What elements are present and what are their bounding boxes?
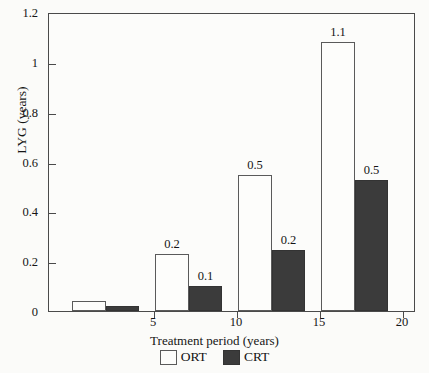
open-square-swatch-icon: [160, 350, 177, 365]
bar-ort-5: [72, 301, 106, 311]
y-axis-title: LYG (years): [14, 50, 30, 190]
bar-ort-20: [321, 42, 355, 311]
bar-label-crt-15: 0.2: [281, 233, 297, 248]
bar-ort-15: [238, 175, 272, 311]
bar-crt-5: [106, 306, 139, 311]
y-tick-mark-0.6: [49, 164, 56, 165]
x-axis-tick-labels: 5 10 15 20: [48, 315, 415, 335]
y-tick-mark-0.2: [49, 263, 56, 264]
bar-label-ort-20: 1.1: [330, 25, 346, 40]
y-tick-label-6: 1.2: [22, 6, 38, 21]
x-axis-title: Treatment period (years): [0, 333, 429, 349]
bar-label-crt-20: 0.5: [364, 163, 380, 178]
y-tick-label-1: 0.2: [22, 255, 38, 270]
y-tick-label-0: 0: [32, 305, 38, 320]
bar-label-ort-10: 0.2: [164, 237, 180, 252]
bar-label-crt-10: 0.1: [198, 269, 214, 284]
x-tick-label-15: 15: [313, 315, 326, 330]
x-tick-label-20: 20: [396, 315, 409, 330]
legend-item-ort: ORT: [160, 349, 207, 365]
bar-crt-20: [355, 180, 388, 311]
y-tick-mark-0.4: [49, 213, 56, 214]
legend-label-ort: ORT: [181, 349, 207, 365]
y-tick-label-2: 0.4: [22, 205, 38, 220]
bar-ort-10: [155, 254, 189, 311]
y-tick-mark-0.8: [49, 114, 56, 115]
y-tick-label-5: 1: [32, 55, 38, 70]
legend-label-crt: CRT: [244, 349, 269, 365]
plot-frame: 0.2 0.1 0.5 0.2 1.1 0.5: [48, 13, 415, 312]
plot-area: 0.2 0.1 0.5 0.2 1.1 0.5: [49, 14, 414, 311]
chart-legend: ORT CRT: [0, 349, 429, 365]
bar-chart-figure: 0 0.2 0.4 0.6 0.8 1 1.2 LYG (years): [0, 0, 429, 373]
legend-item-crt: CRT: [223, 349, 269, 365]
x-tick-label-10: 10: [230, 315, 243, 330]
y-tick-mark-1.0: [49, 64, 56, 65]
filled-square-swatch-icon: [223, 350, 240, 365]
bar-label-ort-15: 0.5: [247, 158, 263, 173]
bar-crt-15: [272, 250, 305, 311]
bar-crt-10: [189, 286, 222, 311]
x-tick-label-5: 5: [150, 315, 156, 330]
